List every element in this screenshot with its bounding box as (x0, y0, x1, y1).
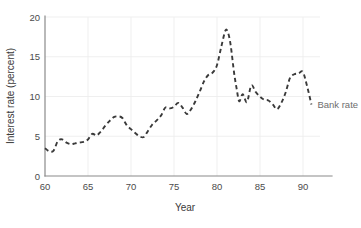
chart-background (0, 0, 361, 228)
y-tick-label-20: 20 (29, 12, 40, 23)
interest-rate-line-chart: 20 15 10 5 0 60 65 70 75 80 85 90 Intere… (0, 0, 361, 228)
y-tick-label-5: 5 (35, 131, 40, 142)
chart-container: 20 15 10 5 0 60 65 70 75 80 85 90 Intere… (0, 0, 361, 228)
bank-rate-series-label: Bank rate (317, 99, 358, 110)
y-tick-label-10: 10 (29, 91, 40, 102)
x-tick-label-80: 80 (212, 181, 223, 192)
y-tick-label-15: 15 (29, 51, 40, 62)
x-tick-label-65: 65 (83, 181, 94, 192)
x-tick-label-90: 90 (298, 181, 309, 192)
x-tick-label-85: 85 (255, 181, 266, 192)
x-tick-label-70: 70 (126, 181, 137, 192)
y-tick-label-0: 0 (35, 171, 40, 182)
x-tick-label-75: 75 (169, 181, 180, 192)
x-axis-title: Year (175, 202, 196, 213)
y-axis-title: Interest rate (percent) (5, 48, 16, 144)
x-tick-label-60: 60 (40, 181, 51, 192)
